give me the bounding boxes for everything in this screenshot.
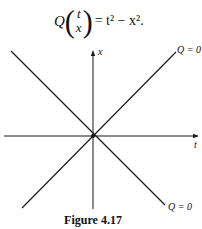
lower-Q-zero-label: Q = 0 (168, 201, 192, 212)
line-t-equals-minus-x (11, 51, 165, 205)
x-axis-label: x (98, 46, 102, 57)
figure-caption: Figure 4.17 (0, 213, 186, 228)
t-axis-label: t (194, 139, 197, 150)
upper-Q-zero-label: Q = 0 (177, 44, 201, 55)
line-t-equals-x (22, 52, 176, 208)
origin-dot (91, 134, 95, 138)
light-cone-diagram (0, 0, 202, 229)
